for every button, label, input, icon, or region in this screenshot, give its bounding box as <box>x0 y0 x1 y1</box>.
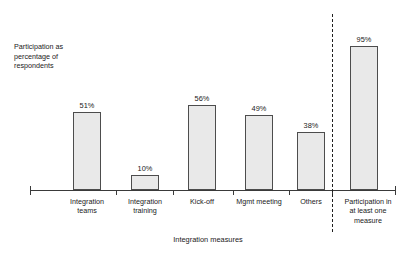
bar-participation-at-least-one[interactable] <box>350 46 378 190</box>
x-axis-tick <box>173 191 174 195</box>
bar-value-label-integration-teams: 51% <box>63 101 111 110</box>
x-axis-tick <box>289 191 290 195</box>
bar-value-label-participation-at-least-one: 95% <box>340 35 388 44</box>
bar-kick-off[interactable] <box>188 105 216 190</box>
category-label-participation-at-least-one: Participation in at least one measure <box>333 197 403 225</box>
category-label-integration-teams: Integration teams <box>56 197 118 216</box>
x-axis-line <box>30 190 396 191</box>
category-label-integration-training: Integration training <box>114 197 176 216</box>
bar-mgmt-meeting[interactable] <box>245 115 273 190</box>
bar-integration-training[interactable] <box>131 175 159 190</box>
y-axis-caption: Participation as percentage of responden… <box>14 42 118 71</box>
x-axis-title-text: Integration measures <box>173 235 242 244</box>
category-label-kick-off: Kick-off <box>171 197 233 206</box>
bar-value-label-integration-training: 10% <box>121 164 169 173</box>
bar-chart-figure: Participation as percentage of responden… <box>0 0 406 255</box>
bar-value-label-kick-off: 56% <box>178 94 226 103</box>
bar-value-label-mgmt-meeting: 49% <box>235 104 283 113</box>
x-axis-title: Integration measures <box>0 235 406 244</box>
x-axis-tick <box>395 191 396 195</box>
bar-others[interactable] <box>297 132 325 190</box>
bar-integration-teams[interactable] <box>73 112 101 190</box>
x-axis-tick <box>116 191 117 195</box>
x-axis-tick <box>233 191 234 195</box>
x-axis-tick <box>30 191 31 195</box>
category-divider-dashed-line <box>332 14 333 232</box>
bar-value-label-others: 38% <box>287 121 335 130</box>
